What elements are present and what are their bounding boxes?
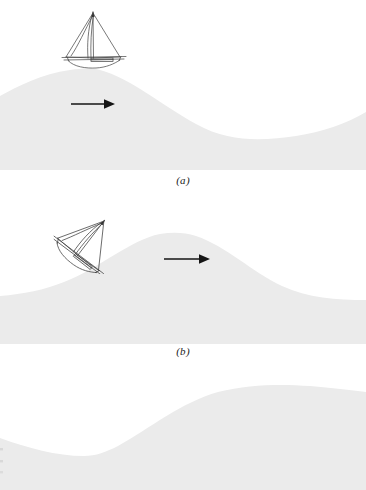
page-margin-marks (0, 446, 7, 480)
sailboat-b (52, 208, 122, 274)
panel-caption-a: (a) (0, 174, 366, 186)
wave-shape-c (0, 368, 366, 490)
figure-sailboat-wave-sequence: (a) (0, 0, 366, 490)
panel-caption-b: (b) (0, 345, 366, 357)
wave-direction-arrow-b (163, 251, 211, 267)
panel-c (0, 368, 366, 490)
sailboat-a (58, 8, 130, 72)
panel-a (0, 0, 366, 170)
wave-shape-a (0, 0, 366, 170)
wave-direction-arrow-a (70, 96, 116, 112)
